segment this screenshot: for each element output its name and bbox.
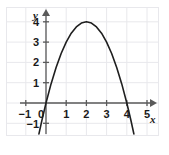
parabola-graph-figure: −1012345 −11234 x y (0, 0, 169, 155)
y-tick-label: 2 (33, 56, 39, 68)
coordinate-plane-svg: −1012345 −11234 x y (0, 0, 169, 155)
y-axis-arrowhead (42, 9, 50, 16)
x-axis-label: x (149, 113, 156, 125)
x-tick-label: 1 (63, 108, 69, 120)
x-axis-arrowhead (150, 99, 157, 107)
y-tick-label: 1 (33, 77, 39, 89)
x-tick-label: 2 (83, 108, 89, 120)
y-tick-label: 3 (33, 36, 39, 48)
x-tick-label: 4 (124, 108, 131, 120)
y-tick-label: −1 (26, 118, 39, 130)
y-axis-label: y (31, 9, 38, 21)
x-tick-label: 3 (104, 108, 110, 120)
